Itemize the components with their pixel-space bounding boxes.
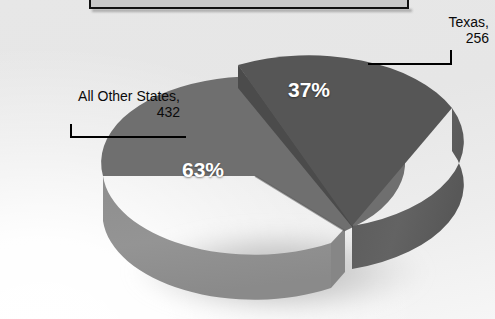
pie-graphic [0, 0, 495, 319]
callout-label-texas: Texas, 256 [449, 14, 489, 46]
callout-texas-line2: 256 [449, 30, 489, 46]
leader-line-other-horizontal [70, 136, 186, 138]
leader-line-texas-horizontal [368, 63, 452, 65]
callout-other-line1: All Other States, [15, 88, 180, 104]
slice-percent-texas: 37% [288, 78, 330, 102]
callout-other-line2: 432 [15, 104, 180, 120]
callout-label-other-states: All Other States, 432 [15, 88, 180, 120]
callout-texas-line1: Texas, [449, 14, 489, 30]
slice-percent-other: 63% [182, 158, 224, 182]
pie-chart-figure: 37% 63% Texas, 256 All Other States, 432 [0, 0, 495, 319]
